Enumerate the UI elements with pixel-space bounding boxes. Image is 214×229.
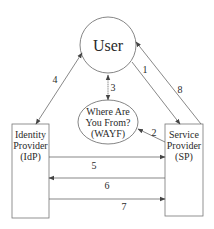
edge-7-idp-sp: 7	[49, 199, 165, 212]
shibboleth-flow-diagram: User Where Are You From? (WAYF) Identity…	[0, 0, 214, 229]
wayf-label-line3: (WAYF)	[91, 128, 125, 140]
edge-8-label: 8	[178, 84, 183, 95]
edge-1-user-sp: 1	[132, 62, 180, 124]
user-label: User	[93, 37, 124, 54]
idp-label-line2: Provider	[13, 140, 48, 151]
sp-label-line1: Service	[169, 129, 200, 140]
wayf-label-line1: Where Are	[86, 106, 130, 117]
edge-7-label: 7	[122, 201, 127, 212]
edge-6-sp-idp: 6	[49, 178, 165, 191]
edge-5-idp-sp: 5	[49, 157, 165, 171]
edge-6-label: 6	[105, 180, 110, 191]
edge-4-idp-user: 4	[36, 53, 82, 124]
idp-node: Identity Provider (IdP)	[12, 124, 49, 218]
idp-label-line3: (IdP)	[20, 151, 41, 163]
sp-label-line2: Provider	[167, 140, 202, 151]
edge-4-label: 4	[53, 74, 58, 85]
edge-5-label: 5	[92, 160, 97, 171]
edge-2-sp-wayf: 2	[138, 127, 165, 142]
idp-label-line1: Identity	[15, 129, 46, 140]
user-node: User	[80, 17, 136, 73]
wayf-node: Where Are You From? (WAYF)	[78, 100, 138, 144]
edge-8-sp-user: 8	[136, 42, 201, 124]
edge-3-label: 3	[111, 82, 116, 93]
edge-1-label: 1	[143, 64, 148, 75]
edge-3-user-wayf: 3	[108, 75, 116, 100]
sp-label-line3: (SP)	[175, 151, 193, 163]
wayf-label-line2: You From?	[86, 117, 131, 128]
sp-node: Service Provider (SP)	[165, 124, 203, 216]
edge-2-label: 2	[152, 127, 157, 138]
